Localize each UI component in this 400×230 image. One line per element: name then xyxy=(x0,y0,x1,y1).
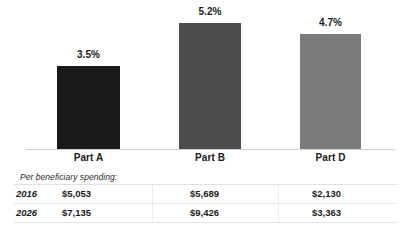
bar-value-label-part-d: 4.7% xyxy=(300,17,361,28)
chart-figure: 3.5% 5.2% 4.7% Part A Part B Part D Per … xyxy=(0,0,400,230)
bar-part-d[interactable] xyxy=(300,34,361,149)
table-cell-2016-part-a: $5,053 xyxy=(62,188,91,199)
bar-value-label-part-a: 3.5% xyxy=(57,49,120,60)
bar-group-part-d: 4.7% xyxy=(300,34,361,149)
table-cell-2026-part-a: $7,135 xyxy=(62,207,91,218)
bar-part-a[interactable] xyxy=(57,66,120,149)
bar-group-part-b: 5.2% xyxy=(179,23,241,149)
bar-part-b[interactable] xyxy=(179,23,241,149)
table-cell-2026-part-b: $9,426 xyxy=(190,207,219,218)
x-tick-label-part-b: Part B xyxy=(179,152,241,163)
table-cell-2016-part-d: $2,130 xyxy=(312,188,341,199)
table-rule-bottom xyxy=(14,222,397,223)
table-row-label-2016: 2016 xyxy=(16,188,37,199)
plot-area: 3.5% 5.2% 4.7% xyxy=(0,0,400,150)
table-row: 2016 $5,053 $5,689 $2,130 xyxy=(0,184,400,203)
table-cell-2026-part-d: $3,363 xyxy=(312,207,341,218)
table-cell-2016-part-b: $5,689 xyxy=(190,188,219,199)
bar-value-label-part-b: 5.2% xyxy=(179,6,241,17)
table-caption: Per beneficiary spending: xyxy=(20,172,117,182)
x-axis-tick-labels: Part A Part B Part D xyxy=(0,152,400,170)
table-row: 2026 $7,135 $9,426 $3,363 xyxy=(0,203,400,222)
spending-table: Per beneficiary spending: 2016 $5,053 $5… xyxy=(0,172,400,230)
x-axis-line xyxy=(26,149,395,150)
x-tick-label-part-d: Part D xyxy=(300,152,361,163)
bar-group-part-a: 3.5% xyxy=(57,66,120,149)
table-row-label-2026: 2026 xyxy=(16,207,37,218)
x-tick-label-part-a: Part A xyxy=(57,152,120,163)
